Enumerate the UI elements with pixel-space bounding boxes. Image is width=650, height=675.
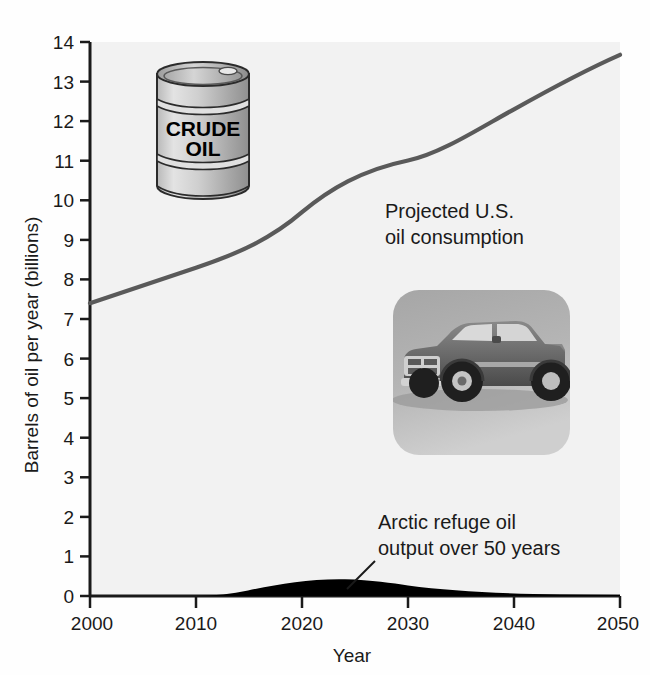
y-tick-label-11: 11: [54, 151, 74, 172]
x-axis-title: Year: [333, 645, 372, 666]
x-tick-label-2030: 2030: [387, 613, 429, 634]
annotation-consumption-line1: Projected U.S.: [385, 200, 514, 222]
y-tick-label-13: 13: [53, 72, 74, 93]
y-tick-label-2: 2: [63, 507, 74, 528]
y-axis-title: Barrels of oil per year (billions): [21, 217, 42, 474]
y-tick-label-0: 0: [63, 586, 74, 607]
pickup-truck-photo: [392, 290, 571, 455]
x-axis-ticks: [90, 596, 620, 608]
y-tick-label-7: 7: [63, 309, 74, 330]
y-tick-label-4: 4: [63, 428, 74, 449]
y-tick-label-8: 8: [63, 269, 74, 290]
annotation-arctic-line2: output over 50 years: [378, 537, 560, 559]
x-tick-label-2040: 2040: [493, 613, 535, 634]
annotation-consumption-line2: oil consumption: [385, 226, 524, 248]
y-tick-label-6: 6: [63, 349, 74, 370]
crude-oil-barrel-icon: CRUDE OIL: [157, 62, 249, 199]
figure-container: 0 1 2 3 4 5 6 7 8 9 10 11 12 13 14 Barre…: [0, 0, 650, 675]
x-tick-label-2010: 2010: [175, 613, 217, 634]
y-tick-label-3: 3: [63, 467, 74, 488]
barrel-label-oil: OIL: [186, 137, 221, 160]
y-tick-label-10: 10: [53, 190, 74, 211]
x-tick-label-2050: 2050: [597, 613, 639, 634]
annotation-arctic-line1: Arctic refuge oil: [378, 511, 516, 533]
y-tick-label-12: 12: [53, 111, 74, 132]
x-tick-label-2000: 2000: [71, 613, 113, 634]
y-tick-label-5: 5: [63, 388, 74, 409]
y-tick-label-9: 9: [63, 230, 74, 251]
x-tick-label-2020: 2020: [281, 613, 323, 634]
y-tick-label-1: 1: [63, 546, 74, 567]
y-tick-label-14: 14: [53, 32, 75, 53]
oil-consumption-chart: 0 1 2 3 4 5 6 7 8 9 10 11 12 13 14 Barre…: [0, 0, 650, 675]
